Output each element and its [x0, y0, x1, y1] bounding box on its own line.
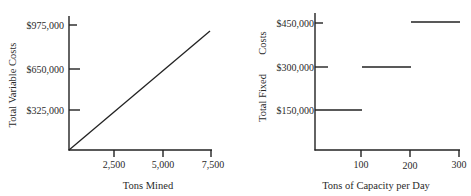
- charts-canvas: $975,000 $650,000 $325,000 2,500 5,000 7…: [0, 0, 471, 196]
- y-axis-title-part2: Costs: [257, 31, 268, 54]
- x-tick-label: 200: [403, 160, 418, 171]
- fixed-cost-chart: $450,000 $300,000 $150,000 100 200 300 T…: [257, 13, 467, 191]
- x-axis-title: Tons Mined: [123, 180, 174, 191]
- x-tick-label: 7,500: [202, 159, 225, 170]
- variable-cost-chart: $975,000 $650,000 $325,000 2,500 5,000 7…: [7, 16, 224, 191]
- y-tick-label: $450,000: [277, 18, 315, 29]
- x-tick-label: 100: [354, 159, 369, 170]
- variable-cost-line: [69, 31, 210, 150]
- y-tick-label: $325,000: [27, 105, 65, 116]
- y-axis-title: Total Variable Costs: [7, 43, 18, 128]
- x-tick-label: 2,500: [103, 159, 126, 170]
- y-tick-label: $150,000: [277, 105, 315, 116]
- x-tick-label: 300: [452, 159, 467, 170]
- y-tick-label: $650,000: [27, 64, 65, 75]
- y-tick-label: $300,000: [277, 62, 315, 73]
- y-axis-title-part1: Total Fixed: [257, 73, 268, 122]
- y-tick-label: $975,000: [27, 20, 65, 31]
- x-tick-label: 5,000: [152, 159, 175, 170]
- x-axis-title: Tons of Capacity per Day: [322, 180, 430, 191]
